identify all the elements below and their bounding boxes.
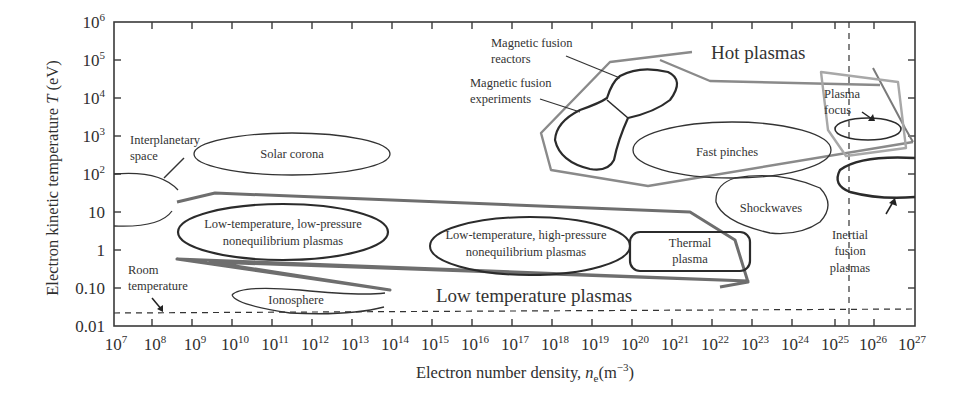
- lt-low-pressure-region: [178, 204, 388, 260]
- svg-text:102: 102: [83, 163, 106, 184]
- shockwaves-label: Shockwaves: [740, 201, 803, 215]
- thermal-label-1: Thermal: [669, 236, 712, 250]
- mf-experiments-leader: [540, 99, 580, 112]
- svg-text:1027: 1027: [898, 333, 927, 354]
- mf-reactors-label-1: Magnetic fusion: [491, 36, 573, 50]
- room-temperature-label-2: temperature: [128, 279, 188, 293]
- solar-corona-label: Solar corona: [260, 147, 324, 161]
- mf-experiments-label-2: experiments: [470, 92, 531, 106]
- svg-text:1020: 1020: [621, 333, 650, 354]
- plasma-parameter-chart: 106 105 104 103 102 10 1 0.10 0.01 107 1…: [0, 0, 978, 403]
- magnetic-fusion-region: [555, 69, 677, 169]
- svg-text:1012: 1012: [301, 333, 329, 354]
- svg-text:108: 108: [144, 333, 167, 354]
- plasma-focus-label-1: Plasma: [824, 87, 861, 101]
- svg-text:103: 103: [83, 125, 106, 146]
- svg-text:1018: 1018: [541, 333, 570, 354]
- mf-reactors-leader: [566, 56, 620, 78]
- room-temperature-label-1: Room: [128, 263, 159, 277]
- plasma-focus-region: [835, 118, 901, 140]
- lthp-label-2: nonequilibrium plasmas: [466, 245, 587, 259]
- fast-pinches-label: Fast pinches: [696, 145, 758, 159]
- inertial-label-2: fusion: [834, 244, 866, 258]
- low-temperature-plasmas-label: Low temperature plasmas: [436, 285, 632, 306]
- svg-text:10: 10: [88, 203, 105, 222]
- magnetic-fusion-divider: [607, 100, 628, 118]
- svg-text:104: 104: [83, 87, 106, 108]
- svg-text:0.10: 0.10: [75, 279, 105, 298]
- inertial-label-3: plasmas: [830, 261, 870, 275]
- ltlp-label-2: nonequilibrium plasmas: [223, 234, 344, 248]
- room-temperature-line: [114, 309, 915, 313]
- y-tick-labels: 106 105 104 103 102 10 1 0.10 0.01: [75, 11, 105, 336]
- svg-text:1014: 1014: [381, 333, 410, 354]
- thermal-label-2: plasma: [672, 252, 708, 266]
- interplanetary-leader: [164, 158, 184, 178]
- svg-text:1013: 1013: [341, 333, 370, 354]
- hot-plasmas-label: Hot plasmas: [711, 42, 805, 63]
- ltlp-label-1: Low-temperature, low-pressure: [204, 217, 362, 231]
- svg-text:1011: 1011: [261, 333, 289, 354]
- svg-text:1023: 1023: [741, 333, 770, 354]
- svg-text:1021: 1021: [661, 333, 689, 354]
- svg-text:1015: 1015: [421, 333, 450, 354]
- svg-text:0.01: 0.01: [75, 317, 105, 336]
- svg-text:107: 107: [105, 333, 128, 354]
- plot-frame: [114, 22, 915, 326]
- svg-text:1016: 1016: [461, 333, 490, 354]
- x-tick-labels: 107 108 109 1010 1011 1012 1013 1014 101…: [105, 333, 927, 354]
- interplanetary-label: Interplanetary: [130, 133, 201, 147]
- svg-text:1025: 1025: [821, 333, 850, 354]
- inertial-label-1: Inertial: [832, 228, 869, 242]
- svg-text:1017: 1017: [501, 333, 530, 354]
- lthp-label-1: Low-temperature, high-pressure: [445, 228, 606, 242]
- svg-text:1010: 1010: [221, 333, 250, 354]
- svg-text:1: 1: [97, 241, 106, 260]
- svg-text:106: 106: [83, 11, 106, 32]
- svg-text:1026: 1026: [859, 333, 888, 354]
- interplanetary-label-2: space: [130, 149, 158, 163]
- y-axis-title: Electron kinetic temperature T (eV): [43, 60, 62, 296]
- svg-text:1024: 1024: [781, 333, 810, 354]
- x-axis-title: Electron number density, ne(m−3): [416, 361, 634, 384]
- plasma-focus-label-2: focus: [824, 103, 851, 117]
- inertial-fusion-arrowhead: [889, 198, 897, 206]
- mf-experiments-label-1: Magnetic fusion: [470, 76, 552, 90]
- mf-reactors-label-2: reactors: [491, 52, 531, 66]
- svg-text:105: 105: [83, 49, 106, 70]
- svg-text:1022: 1022: [701, 333, 729, 354]
- interplanetary-space-region: [114, 173, 178, 226]
- ionosphere-label: Ionosphere: [268, 293, 324, 307]
- svg-text:109: 109: [184, 333, 207, 354]
- svg-text:1019: 1019: [581, 333, 610, 354]
